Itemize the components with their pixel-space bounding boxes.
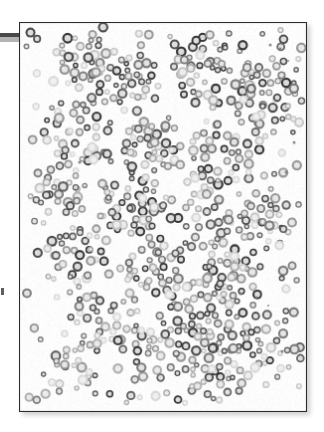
- figure-root: [0, 0, 324, 432]
- margin-tick-mark: [1, 288, 4, 295]
- micrograph-canvas: [20, 23, 306, 411]
- micrograph-panel: [19, 22, 307, 412]
